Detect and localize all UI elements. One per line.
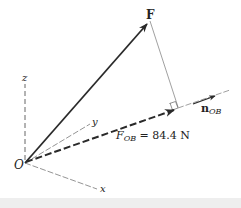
perpendicular-line: [150, 21, 178, 107]
z-axis-label: z: [22, 73, 27, 83]
projection-sub: OB: [124, 134, 136, 143]
projection-label: FOB = 84.4 N: [116, 130, 190, 143]
origin-label: O: [14, 159, 24, 171]
x-axis-label: x: [100, 184, 106, 194]
projection-value: = 84.4 N: [136, 129, 190, 142]
x-axis: [25, 163, 97, 189]
unit-vector-label: nOB: [201, 103, 221, 116]
unit-vector-main: n: [201, 102, 209, 115]
y-axis-label: y: [92, 117, 98, 127]
y-axis: [25, 124, 90, 163]
force-label: F: [146, 9, 155, 21]
projection-main: F: [116, 129, 124, 142]
unit-vector-sub: OB: [209, 107, 221, 116]
